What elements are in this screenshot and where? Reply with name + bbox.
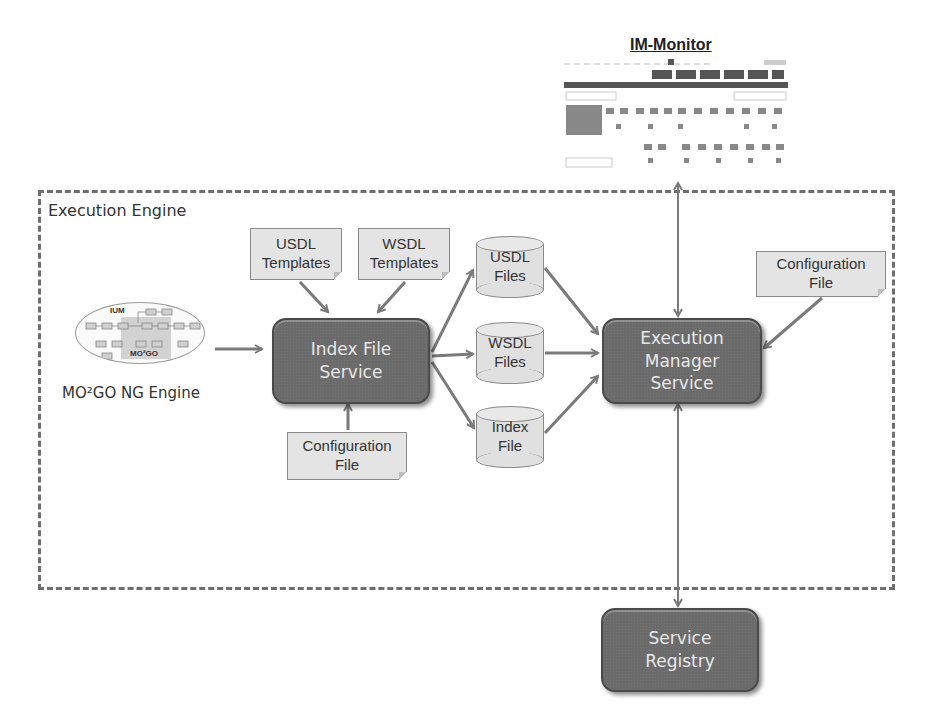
store-label: WSDL — [476, 334, 544, 353]
note-line: Configuration — [776, 255, 865, 274]
service-label: Registry — [645, 650, 715, 673]
note-wsdl-templates: WSDLTemplates — [358, 228, 450, 280]
store-label: Files — [476, 267, 544, 286]
im-monitor-screenshot — [564, 58, 792, 174]
store-wsdl-files: WSDLFiles — [476, 322, 544, 384]
service-registry: ServiceRegistry — [601, 608, 759, 692]
note-line: File — [776, 274, 865, 293]
service-label: Service — [645, 627, 715, 650]
note-usdl-templates: USDLTemplates — [250, 228, 342, 280]
mo2go-engine-graphic: IUM MO²GO — [75, 302, 205, 364]
service-label: Execution — [640, 327, 723, 350]
service-label: Manager — [640, 350, 723, 373]
mo2go-engine-caption: MO²GO NG Engine — [62, 384, 200, 402]
note-line: Templates — [262, 254, 330, 273]
store-index-file: IndexFile — [476, 406, 544, 468]
store-usdl-files: USDLFiles — [476, 236, 544, 298]
note-config-exec: ConfigurationFile — [756, 251, 886, 297]
note-config-index: ConfigurationFile — [287, 432, 407, 480]
execution-manager-service: ExecutionManagerService — [602, 318, 762, 404]
index-file-service: Index FileService — [272, 318, 430, 404]
note-line: WSDL — [370, 235, 438, 254]
note-line: Configuration — [302, 437, 391, 456]
note-line: Templates — [370, 254, 438, 273]
execution-engine-label: Execution Engine — [48, 201, 186, 220]
store-label: Index — [476, 418, 544, 437]
service-label: Service — [640, 372, 723, 395]
service-label: Service — [311, 361, 392, 384]
store-label: Files — [476, 353, 544, 372]
note-line: USDL — [262, 235, 330, 254]
service-label: Index File — [311, 338, 392, 361]
mo2go-label: MO²GO — [130, 349, 158, 358]
store-label: File — [476, 437, 544, 456]
store-label: USDL — [476, 248, 544, 267]
note-line: File — [302, 456, 391, 475]
ium-label: IUM — [110, 306, 125, 315]
im-monitor-title: IM-Monitor — [630, 36, 712, 54]
